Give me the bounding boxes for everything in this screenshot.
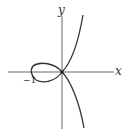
node-point xyxy=(60,70,63,73)
x-axis-label: x xyxy=(115,64,122,78)
tick-label-neg1: −1 xyxy=(23,75,36,85)
y-axis-label: y xyxy=(58,3,65,17)
plot-canvas xyxy=(0,0,127,131)
curve-upper-branch xyxy=(62,15,83,72)
curve-lower-branch xyxy=(62,72,84,128)
